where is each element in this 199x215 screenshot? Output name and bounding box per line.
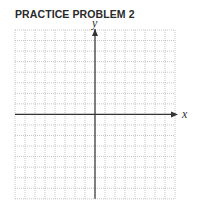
x-axis-arrow-icon <box>171 111 178 117</box>
coordinate-grid: x y <box>0 0 199 215</box>
y-axis-label: y <box>91 16 98 30</box>
x-axis-label: x <box>181 107 188 121</box>
